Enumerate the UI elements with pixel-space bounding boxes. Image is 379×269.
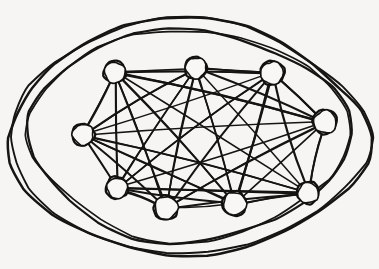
node-outline [104,62,125,83]
graph-node[interactable]: top-left [103,61,126,84]
node-outline [261,61,284,85]
outer-boundary-stroke [11,17,373,254]
graph-nodes-group: top-lefttop-centertop-rightrightbottom-r… [72,57,337,220]
graph-node[interactable]: top-center [185,57,207,79]
graph-node[interactable]: top-right [261,61,285,85]
graph-node[interactable]: bottom-center-right [222,191,247,216]
outer-boundary-stroke [8,18,372,257]
graph-edge [91,73,188,131]
graph-node[interactable]: left [72,124,96,146]
graph-edge [121,78,229,196]
sketch-canvas: top-lefttop-centertop-rightrightbottom-r… [0,0,379,269]
graph-edge [311,132,323,184]
graph-node[interactable]: bottom-left [106,176,128,199]
boundary-outline-group [8,17,374,256]
node-outline [107,178,128,199]
graph-diagram: top-lefttop-centertop-rightrightbottom-r… [0,0,379,269]
graph-edge [93,122,314,134]
